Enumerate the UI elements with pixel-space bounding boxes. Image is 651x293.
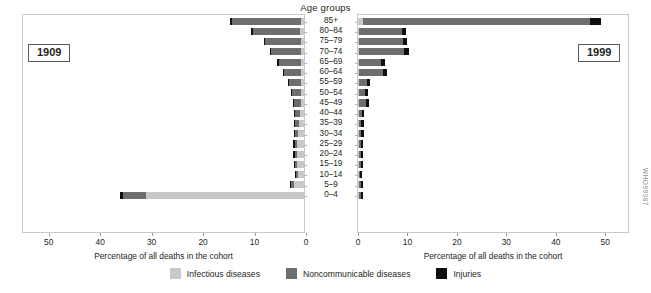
age-group-label: 5–9 bbox=[305, 180, 357, 190]
bar-segment-noncommunicable bbox=[279, 59, 300, 66]
bar-segment-noncommunicable bbox=[359, 79, 367, 86]
stacked-bar bbox=[264, 38, 304, 45]
x-axis-tick bbox=[407, 233, 408, 236]
bars-1909 bbox=[23, 16, 304, 231]
stacked-bar bbox=[358, 151, 363, 158]
x-axis-tick-label: 0 bbox=[356, 237, 361, 247]
bar-row bbox=[23, 47, 304, 57]
bar-segment-injuries bbox=[361, 130, 363, 137]
bar-row bbox=[358, 139, 628, 149]
bar-segment-infectious bbox=[294, 181, 304, 188]
bar-segment-noncommunicable bbox=[232, 18, 301, 25]
stacked-bar bbox=[120, 192, 304, 199]
stacked-bar bbox=[358, 48, 409, 55]
legend-item-noncommunicable: Noncommunicable diseases bbox=[286, 268, 410, 279]
bar-segment-infectious bbox=[301, 48, 304, 55]
bar-segment-infectious bbox=[297, 151, 304, 158]
x-axis-caption-right: Percentage of all deaths in the cohort bbox=[357, 251, 629, 261]
legend-swatch-infectious-icon bbox=[170, 268, 181, 279]
age-group-label: 70–74 bbox=[305, 47, 357, 57]
stacked-bar bbox=[358, 28, 406, 35]
bar-segment-injuries bbox=[367, 79, 370, 86]
bar-row bbox=[23, 57, 304, 67]
bar-row bbox=[23, 129, 304, 139]
x-axis-tick bbox=[358, 233, 359, 236]
bar-segment-injuries bbox=[383, 69, 387, 76]
x-axis-tick-label: 0 bbox=[304, 237, 309, 247]
bar-row bbox=[23, 77, 304, 87]
bar-segment-injuries bbox=[366, 99, 369, 106]
bar-segment-infectious bbox=[301, 69, 304, 76]
bar-segment-injuries bbox=[360, 171, 361, 178]
x-axis-tick-label: 10 bbox=[403, 237, 412, 247]
legend-label: Injuries bbox=[453, 269, 481, 279]
bar-segment-noncommunicable bbox=[265, 38, 301, 45]
bar-segment-noncommunicable bbox=[294, 99, 301, 106]
x-axis-tick-label: 50 bbox=[44, 237, 53, 247]
x-axis-tick bbox=[49, 233, 50, 236]
bar-row bbox=[23, 170, 304, 180]
bar-segment-infectious bbox=[301, 89, 304, 96]
bar-segment-infectious bbox=[297, 140, 304, 147]
bar-segment-infectious bbox=[298, 171, 304, 178]
stacked-bar bbox=[358, 140, 363, 147]
x-axis-tick bbox=[506, 233, 507, 236]
bar-row bbox=[358, 67, 628, 77]
bar-segment-injuries bbox=[361, 161, 363, 168]
bar-row bbox=[358, 57, 628, 67]
bar-row bbox=[23, 118, 304, 128]
bars-1999 bbox=[358, 16, 628, 231]
page-title: Age groups bbox=[0, 2, 651, 13]
age-group-label: 40–44 bbox=[305, 108, 357, 118]
x-axis-tick-label: 20 bbox=[452, 237, 461, 247]
bar-row bbox=[358, 77, 628, 87]
stacked-bar bbox=[358, 171, 362, 178]
bar-row bbox=[358, 149, 628, 159]
age-group-labels: 85+80–8475–7970–7465–6960–6455–5950–5445… bbox=[305, 16, 357, 231]
x-axis-1999: Percentage of all deaths in the cohort 0… bbox=[357, 233, 629, 255]
age-group-label: 25–29 bbox=[305, 139, 357, 149]
stacked-bar bbox=[293, 151, 304, 158]
x-axis-tick bbox=[203, 233, 204, 236]
bar-row bbox=[358, 170, 628, 180]
x-axis-tick bbox=[152, 233, 153, 236]
age-group-label: 55–59 bbox=[305, 77, 357, 87]
x-axis-caption-left: Percentage of all deaths in the cohort bbox=[22, 251, 305, 261]
bar-segment-noncommunicable bbox=[271, 48, 301, 55]
bar-row bbox=[358, 88, 628, 98]
bar-segment-injuries bbox=[361, 151, 363, 158]
bar-row bbox=[23, 149, 304, 159]
x-axis-tick bbox=[556, 233, 557, 236]
source-code-label: WHO99387 bbox=[642, 168, 649, 206]
bar-row bbox=[358, 159, 628, 169]
age-group-label: 30–34 bbox=[305, 129, 357, 139]
bar-segment-noncommunicable bbox=[363, 18, 590, 25]
bar-segment-noncommunicable bbox=[359, 48, 404, 55]
bar-row bbox=[358, 190, 628, 200]
bar-row bbox=[358, 36, 628, 46]
bar-row bbox=[23, 98, 304, 108]
bar-segment-noncommunicable bbox=[123, 192, 146, 199]
x-axis-1909: Percentage of all deaths in the cohort 5… bbox=[22, 233, 305, 255]
bar-segment-noncommunicable bbox=[359, 99, 366, 106]
stacked-bar bbox=[358, 79, 370, 86]
bar-segment-infectious bbox=[301, 38, 304, 45]
bar-segment-infectious bbox=[301, 99, 304, 106]
bar-segment-noncommunicable bbox=[359, 28, 401, 35]
age-group-label: 0–4 bbox=[305, 190, 357, 200]
bar-row bbox=[23, 180, 304, 190]
x-axis-tick-label: 30 bbox=[502, 237, 511, 247]
age-group-label: 10–14 bbox=[305, 170, 357, 180]
stacked-bar bbox=[294, 130, 304, 137]
bar-segment-noncommunicable bbox=[359, 69, 383, 76]
bar-row bbox=[358, 180, 628, 190]
bar-row bbox=[23, 108, 304, 118]
stacked-bar bbox=[291, 89, 304, 96]
stacked-bar bbox=[358, 161, 363, 168]
bar-segment-infectious bbox=[297, 161, 304, 168]
age-group-label: 50–54 bbox=[305, 88, 357, 98]
age-group-label: 80–84 bbox=[305, 26, 357, 36]
stacked-bar bbox=[358, 38, 407, 45]
age-group-label: 75–79 bbox=[305, 36, 357, 46]
x-axis-tick bbox=[605, 233, 606, 236]
